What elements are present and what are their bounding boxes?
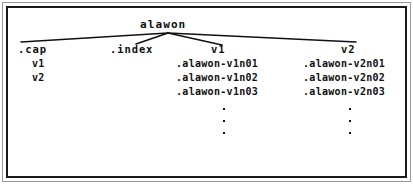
ellipsis-dot: [349, 108, 351, 110]
branch-label-v1: v1: [211, 43, 225, 55]
branch-label-v2: v2: [341, 43, 355, 55]
leaf-v2-child-1: .alawon-v2n02: [303, 72, 385, 83]
tree-diagram: alawon .cap .index v1 v2 v1 v2 .alawon-v…: [0, 0, 413, 184]
ellipsis-v1-column: [219, 108, 229, 144]
ellipsis-v2-column: [345, 108, 355, 144]
ellipsis-dot: [223, 108, 225, 110]
ellipsis-dot: [349, 132, 351, 134]
leaf-v2-child-2: .alawon-v2n03: [303, 86, 385, 97]
diagram-screenshot: alawon .cap .index v1 v2 v1 v2 .alawon-v…: [0, 0, 413, 184]
leaf-cap-child-1: v2: [32, 72, 45, 83]
ellipsis-dot: [349, 120, 351, 122]
leaf-v1-child-2: .alawon-v1n03: [176, 86, 258, 97]
leaf-v1-child-0: .alawon-v1n01: [176, 58, 258, 69]
connector-root-to-cap: [21, 33, 168, 42]
tree-root-label: alawon: [140, 18, 186, 31]
leaf-v1-child-1: .alawon-v1n02: [176, 72, 258, 83]
leaf-cap-child-0: v1: [32, 58, 45, 69]
branch-label-index: .index: [110, 43, 153, 55]
ellipsis-dot: [223, 120, 225, 122]
connector-root-to-v2: [168, 33, 356, 42]
leaf-v2-child-0: .alawon-v2n01: [303, 58, 385, 69]
branch-label-cap: .cap: [18, 43, 47, 55]
ellipsis-dot: [223, 132, 225, 134]
